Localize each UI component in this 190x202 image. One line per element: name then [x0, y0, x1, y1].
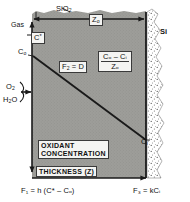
f1-flux-equation: F₁ = h (C* – Cₒ) [21, 187, 74, 195]
c-zero-label: Co [18, 48, 26, 56]
oxygen-reactant-label: O2 [6, 83, 15, 91]
silicon-region-label: Si [160, 28, 167, 36]
fraction-numerator: Cₒ – Cᵢ [101, 53, 129, 62]
f2-body: = D [70, 62, 84, 71]
zo-label-subscript: o [97, 18, 100, 24]
oxide-thickness-label: Zo [89, 14, 103, 26]
h2o-post: O [11, 95, 17, 104]
vertical-axis-label: OXIDANT CONCENTRATION [38, 140, 109, 159]
vertical-axis-label-line1: OXIDANT [41, 142, 75, 149]
c-i-subscript: i [147, 140, 148, 146]
fraction-denominator: Zₒ [101, 62, 129, 70]
vertical-axis-label-line2: CONCENTRATION [41, 150, 106, 157]
c-star-superscript: * [40, 33, 42, 39]
o2-subscript: 2 [12, 85, 15, 91]
sio2-label-subscript: 2 [69, 7, 72, 13]
oxidation-model-figure: Gas SiO2 Zo Si C* Co F2 = D Cₒ – Cᵢ Zₒ O… [0, 0, 190, 202]
f3-flux-equation: F₃ = kCᵢ [133, 187, 160, 195]
sio2-label-text: SiO [56, 4, 69, 13]
horizontal-axis-label: THICKNESS (Z) [36, 166, 97, 177]
water-reactant-label: H2O [3, 96, 17, 104]
c-star-label: C* [31, 32, 45, 44]
sio2-region-label: SiO2 [56, 5, 72, 13]
c-i-label: Ci [141, 138, 148, 146]
gas-region-label: Gas [11, 21, 24, 28]
f2-gradient-fraction: Cₒ – Cᵢ Zₒ [98, 51, 132, 72]
reactant-flux-arrow [20, 82, 31, 102]
c-zero-subscript: o [24, 50, 27, 56]
f2-flux-equation: F2 = D [59, 61, 87, 73]
